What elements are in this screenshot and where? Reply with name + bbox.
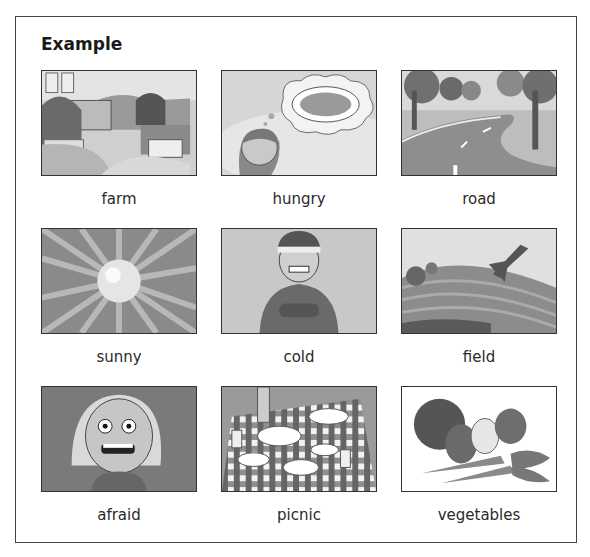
card-vegetables: vegetables (401, 386, 557, 524)
card-farm: farm (41, 70, 197, 208)
card-label: afraid (41, 506, 197, 524)
card-label: cold (221, 348, 377, 366)
page-title: Example (41, 34, 122, 54)
card-field: field (401, 228, 557, 366)
card-road: road (401, 70, 557, 208)
card-label: field (401, 348, 557, 366)
hungry-girl-picture-icon (221, 70, 377, 176)
afraid-girl-picture-icon (41, 386, 197, 492)
card-label: farm (41, 190, 197, 208)
cold-boy-picture-icon (221, 228, 377, 334)
card-sunny: sunny (41, 228, 197, 366)
field-picture-icon (401, 228, 557, 334)
vegetables-picture-icon (401, 386, 557, 492)
card-label: sunny (41, 348, 197, 366)
card-cold: cold (221, 228, 377, 366)
card-label: road (401, 190, 557, 208)
card-afraid: afraid (41, 386, 197, 524)
picnic-picture-icon (221, 386, 377, 492)
card-label: hungry (221, 190, 377, 208)
card-label: vegetables (401, 506, 557, 524)
card-hungry: hungry (221, 70, 377, 208)
sun-picture-icon (41, 228, 197, 334)
farm-picture-icon (41, 70, 197, 176)
road-picture-icon (401, 70, 557, 176)
card-label: picnic (221, 506, 377, 524)
card-picnic: picnic (221, 386, 377, 524)
